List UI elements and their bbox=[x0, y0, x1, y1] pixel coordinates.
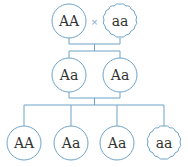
connector-lines bbox=[24, 38, 164, 126]
genotype-label: AA bbox=[13, 135, 35, 151]
f2-offspring-4: aa bbox=[147, 126, 181, 160]
genotype-label: Aa bbox=[110, 67, 129, 83]
f2-offspring-3: Aa bbox=[100, 126, 134, 160]
genotype-label: aa bbox=[156, 135, 173, 151]
f1-connector bbox=[69, 92, 120, 98]
genotype-label: Aa bbox=[107, 135, 126, 151]
parent-connector bbox=[69, 38, 120, 44]
cross-symbol: × bbox=[91, 17, 99, 27]
f1-branch bbox=[69, 51, 120, 58]
genotype-label: AA bbox=[58, 13, 80, 29]
genotype-label: Aa bbox=[61, 135, 80, 151]
parent-aa-recessive: aa bbox=[103, 4, 137, 38]
genotype-label: Aa bbox=[59, 67, 78, 83]
f2-offspring-2: Aa bbox=[54, 126, 88, 160]
parent-aa-dominant: AA bbox=[52, 4, 86, 38]
genetic-cross-diagram: AA × aa Aa Aa AA Aa Aa aa bbox=[0, 0, 188, 167]
f1-offspring-1: Aa bbox=[52, 58, 86, 92]
genotype-label: aa bbox=[112, 13, 129, 29]
f2-branch bbox=[24, 105, 164, 126]
f2-offspring-1: AA bbox=[7, 126, 41, 160]
f1-offspring-2: Aa bbox=[103, 58, 137, 92]
